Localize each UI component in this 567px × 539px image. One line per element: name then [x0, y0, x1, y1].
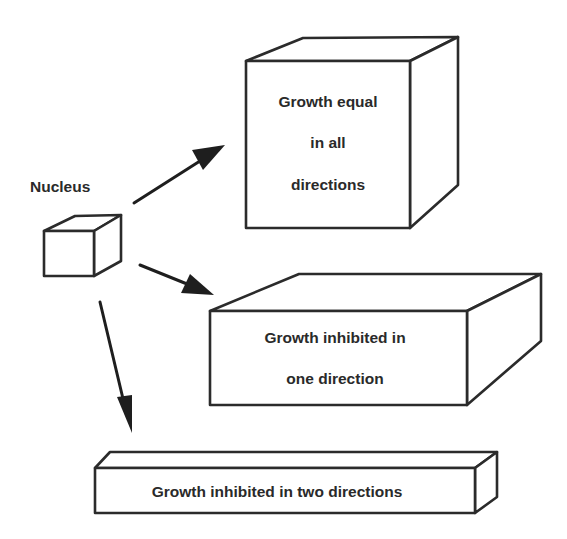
bar-growth-two-directions: Growth inhibited in two directions	[95, 452, 497, 513]
equal-growth-line-1: Growth equal	[278, 93, 377, 110]
cube-growth-equal: Growth equal in all directions	[246, 37, 458, 228]
arrow-to-equal-growth	[134, 145, 225, 203]
crystal-growth-diagram: Nucleus Growth equal in all directions G…	[0, 0, 567, 539]
one-direction-line-2: one direction	[286, 370, 383, 387]
arrow-to-two-directions	[100, 302, 132, 433]
two-directions-line-1: Growth inhibited in two directions	[152, 483, 403, 500]
equal-growth-line-2: in all	[310, 134, 345, 151]
nucleus-cube	[44, 215, 121, 276]
slab-growth-one-direction: Growth inhibited in one direction	[210, 274, 541, 405]
arrow-to-one-direction	[140, 265, 214, 295]
equal-growth-line-3: directions	[291, 176, 365, 193]
one-direction-line-1: Growth inhibited in	[264, 329, 405, 346]
nucleus-label: Nucleus	[30, 178, 90, 195]
